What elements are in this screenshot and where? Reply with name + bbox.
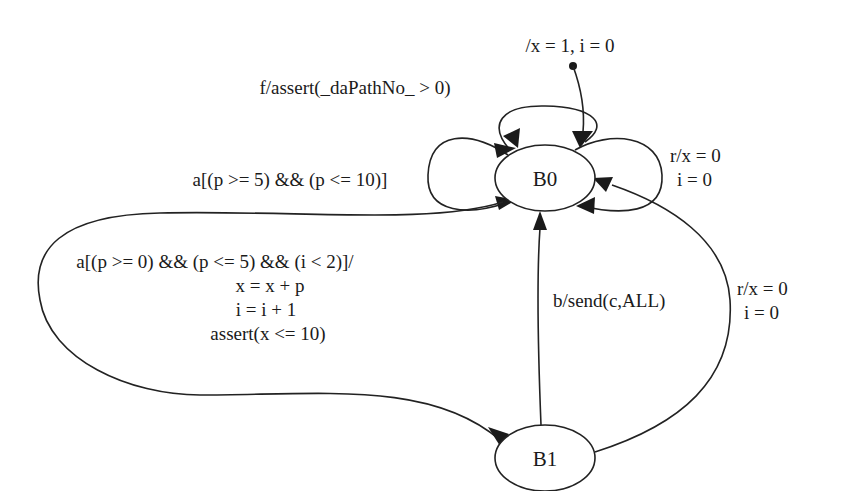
transition-label-a-line4: assert(x <= 10) [210, 323, 325, 345]
transition-b1-to-b0-r: r/x = 0 i = 0 [593, 177, 788, 452]
state-b1-label: B1 [533, 447, 558, 471]
transition-label-b: b/send(c,ALL) [553, 290, 665, 312]
transition-label-r-b1-line2: i = 0 [744, 302, 779, 323]
edge-b1-to-b0-send [538, 228, 541, 425]
state-b0: B0 [495, 145, 595, 211]
state-b0-label: B0 [533, 167, 558, 191]
transition-b1-to-b0-send: b/send(c,ALL) [533, 211, 665, 425]
transition-b0-self-a: a[(p >= 5) && (p <= 10)] [193, 138, 516, 210]
transition-b0-to-b1: a[(p >= 0) && (p <= 5) && (i < 2)]/ x = … [38, 202, 509, 446]
transition-label-a-line3: i = i + 1 [236, 299, 297, 320]
transition-label-f: f/assert(_daPathNo_ > 0) [259, 77, 450, 99]
arrowhead-icon [533, 211, 547, 230]
state-b1: B1 [495, 425, 595, 491]
transition-label-a-self: a[(p >= 5) && (p <= 10)] [193, 169, 388, 191]
transition-label-r-self-line1: r/x = 0 [670, 145, 721, 166]
edge-b0-to-b1 [38, 202, 503, 440]
initial-transition: /x = 1, i = 0 [526, 35, 615, 148]
arrowhead-icon [593, 177, 613, 192]
state-diagram: /x = 1, i = 0 f/assert(_daPathNo_ > 0) a… [0, 0, 841, 491]
transition-label-r-b1-line1: r/x = 0 [737, 278, 788, 299]
initial-transition-edge [573, 66, 583, 132]
initial-transition-label: /x = 1, i = 0 [526, 35, 615, 56]
transition-b0-self-r: r/x = 0 i = 0 [575, 139, 721, 214]
edge-b1-to-b0-r [595, 185, 730, 452]
transition-label-r-self-line2: i = 0 [677, 169, 712, 190]
transition-b0-self-f: f/assert(_daPathNo_ > 0) [259, 77, 596, 150]
transition-label-a-line1: a[(p >= 0) && (p <= 5) && (i < 2)]/ [76, 251, 354, 273]
transition-label-a-line2: x = x + p [236, 275, 305, 296]
